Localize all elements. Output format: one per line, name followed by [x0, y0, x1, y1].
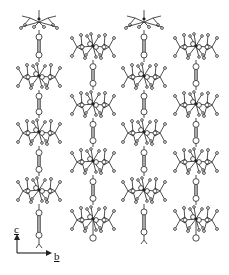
- bridging-bond: [141, 204, 147, 240]
- molecule-cluster: [125, 10, 164, 29]
- molecule-cluster: [71, 33, 116, 60]
- crystal-structure-diagram: [0, 0, 229, 275]
- bridging-bond: [90, 175, 96, 205]
- molecule-cluster: [174, 148, 219, 175]
- bridging-bond: [90, 60, 96, 90]
- molecule-cluster: [20, 10, 59, 29]
- molecule-cluster: [122, 177, 167, 204]
- molecule-cluster: [17, 177, 62, 204]
- bridging-bond: [141, 90, 147, 118]
- axis-label-c: c: [14, 224, 19, 235]
- molecule-cluster: [174, 33, 219, 60]
- bridging-bond: [90, 118, 96, 147]
- bridging-bond: [36, 146, 42, 176]
- molecule-cluster: [122, 119, 167, 146]
- molecule-cluster: [71, 148, 116, 175]
- bridging-bond: [193, 175, 199, 205]
- molecule-cluster: [71, 91, 116, 118]
- bridging-bond: [193, 60, 199, 90]
- molecule-cluster: [17, 63, 62, 90]
- molecule-cluster: [17, 119, 62, 146]
- molecule-cluster: [174, 91, 219, 118]
- bridging-bond: [193, 118, 199, 147]
- axis-indicator: [14, 234, 52, 256]
- bridging-bond: [36, 204, 42, 244]
- bridging-bond: [36, 90, 42, 118]
- bridging-bond: [36, 30, 42, 62]
- bridging-bond: [141, 146, 147, 176]
- bridging-bond: [141, 30, 147, 62]
- axis-label-b: b: [54, 251, 60, 262]
- molecule-cluster: [122, 63, 167, 90]
